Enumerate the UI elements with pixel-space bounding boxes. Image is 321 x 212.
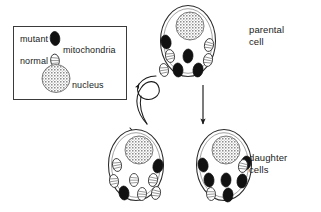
nucleus <box>212 136 240 164</box>
parental-cell-label: parental cell <box>249 24 284 48</box>
daughter-cell-right <box>197 130 253 203</box>
daughter-cell-left <box>109 130 165 201</box>
legend-label-mutant: mutant <box>20 34 48 44</box>
legend-label-nucleus: nucleus <box>72 80 104 90</box>
legend-label-mitochondria: mitochondria <box>63 45 116 55</box>
cell-division-diagram: mutant normal mitochondria nucleus paren… <box>0 0 321 212</box>
nucleus <box>176 12 204 40</box>
parental-cell <box>159 6 216 78</box>
nucleus-icon <box>42 65 70 93</box>
daughter-cells-label: daughter cells <box>249 152 287 176</box>
legend-label-normal: normal <box>20 56 48 66</box>
mutant-mitochondrion <box>221 173 231 187</box>
normal-mitochondrion <box>130 174 139 187</box>
nucleus <box>125 136 153 164</box>
